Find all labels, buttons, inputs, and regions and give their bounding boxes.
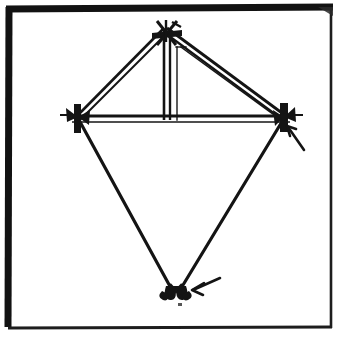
scan-speck [178, 303, 182, 306]
kite-frame-drawing [0, 0, 347, 341]
border-left-edge [8, 7, 9, 327]
border-top-edge [6, 7, 333, 9]
kite-frame-figure: Kite frame construction diagram Line dra… [0, 0, 347, 341]
right-lashing-knot-center [281, 114, 288, 121]
left-lashing-knot-center [75, 114, 82, 121]
border-bottom-edge [8, 327, 332, 328]
